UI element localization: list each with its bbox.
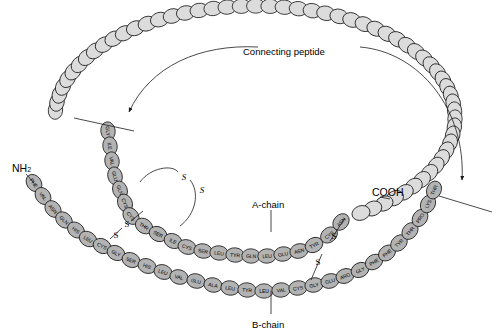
b-chain-residue-15-leu: LEU: [220, 280, 240, 297]
c-terminus-text: COOH: [372, 186, 404, 198]
disulfide-s-right-2: S: [331, 231, 336, 241]
proinsulin-diagram: PHEVALASNGLNHISLEUCYSGLYSERHISLEUVALGLUA…: [0, 0, 501, 336]
b-chain-residue-13-glu: GLU: [185, 272, 206, 290]
b-chain-residue-18-val: VAL: [271, 282, 291, 298]
residue-label: GLN: [246, 253, 257, 259]
residue-label: LEU: [214, 249, 225, 256]
disulfide-s-left-1: S: [113, 230, 118, 240]
residue-label: VAL: [276, 287, 286, 294]
a-chain-residues: GLYILEVALGLUGLNCYSCYSTHRSERILECYSSERLEUT…: [100, 121, 353, 264]
a-chain-label: A-chain: [252, 194, 284, 212]
left-cleavage-arrow: [129, 47, 258, 112]
disulfide-s-right-1: S: [315, 257, 320, 267]
intra-disulfide-arc-right: [180, 180, 195, 226]
residue-label: TYR: [242, 287, 253, 294]
n-terminus-text: NH: [12, 162, 27, 174]
right-cleavage-slash: [439, 196, 492, 212]
disulfide-s-left-2: S: [124, 219, 129, 229]
intra-disulfide-arc-left: [140, 168, 178, 182]
disulfide-s-intra-2: S: [200, 185, 205, 195]
residue-label: LEU: [259, 288, 269, 294]
connecting-peptide-label: Connecting peptide: [243, 41, 325, 59]
b-chain-label-text: B-chain: [252, 319, 284, 330]
c-terminus-label: COOH: [372, 182, 404, 200]
disulfide-s-intra-1: S: [182, 172, 187, 182]
n-terminus-subscript: 2: [27, 166, 31, 173]
b-chain-residue-17-leu: LEU: [255, 284, 273, 298]
residue-label: LEU: [262, 253, 272, 260]
b-chain-residue-16-tyr: TYR: [237, 282, 257, 298]
a-chain-label-text: A-chain: [252, 199, 284, 210]
b-chain-label: B-chain: [252, 314, 284, 332]
b-chain-residue-14-ala: ALA: [203, 276, 224, 294]
connecting-peptide-label-text: Connecting peptide: [243, 46, 325, 57]
n-terminus-label: NH2: [12, 158, 31, 176]
residue-label: TYR: [230, 252, 241, 259]
